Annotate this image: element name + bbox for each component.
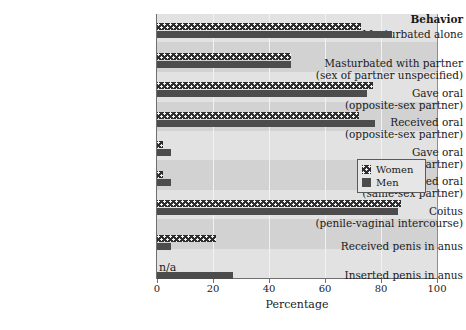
- x-tick-label-100: 100: [417, 283, 457, 295]
- category-label-line: Gave oral: [314, 146, 463, 158]
- legend: Women Men: [357, 159, 426, 193]
- x-tick-label-0: 0: [137, 283, 177, 295]
- category-label-line: (sex of partner unspecified): [314, 69, 463, 81]
- category-label-line: (opposite-sex partner): [314, 99, 463, 111]
- bar-women-5: [157, 171, 163, 178]
- category-label-1: Masturbated with partner (sex of partner…: [314, 57, 466, 81]
- bar-women-3: [157, 112, 359, 119]
- bar-men-4: [157, 149, 171, 156]
- bar-men-8: [157, 272, 233, 279]
- legend-swatch-women-icon: [362, 165, 371, 174]
- category-label-line: (opposite-sex partner): [314, 128, 463, 140]
- category-label-7: Received penis in anus: [314, 240, 466, 252]
- legend-label-men: Men: [376, 177, 399, 188]
- x-tick-label-80: 80: [361, 283, 401, 295]
- category-label-line: Received penis in anus: [314, 240, 463, 252]
- legend-label-women: Women: [376, 164, 413, 175]
- bar-women-7: [157, 235, 216, 242]
- category-label-line: Masturbated with partner: [314, 57, 463, 69]
- x-axis-title: Percentage: [157, 298, 437, 311]
- legend-swatch-men-icon: [362, 178, 371, 187]
- bar-women-4: [157, 141, 163, 148]
- bar-men-6: [157, 208, 398, 215]
- x-tick-label-20: 20: [193, 283, 233, 295]
- category-label-line: Inserted penis in anus: [314, 269, 463, 281]
- x-tick-label-40: 40: [249, 283, 289, 295]
- bar-chart: 0 20 40 60 80 100 Percentage Behavior Ma…: [0, 0, 466, 330]
- category-label-line: (penile-vaginal intercourse): [314, 217, 463, 229]
- bar-women-1: [157, 53, 291, 60]
- bar-men-3: [157, 120, 375, 127]
- bar-men-1: [157, 61, 291, 68]
- category-label-8: Inserted penis in anus: [314, 269, 466, 281]
- bar-men-5: [157, 179, 171, 186]
- bar-men-7: [157, 243, 171, 250]
- bar-women-0: [157, 23, 361, 30]
- legend-row-women: Women: [362, 163, 421, 176]
- bar-men-0: [157, 31, 392, 38]
- legend-row-men: Men: [362, 176, 421, 189]
- bar-women-6: [157, 200, 401, 207]
- x-tick-label-60: 60: [305, 283, 345, 295]
- bar-women-2: [157, 82, 373, 89]
- bar-men-2: [157, 90, 367, 97]
